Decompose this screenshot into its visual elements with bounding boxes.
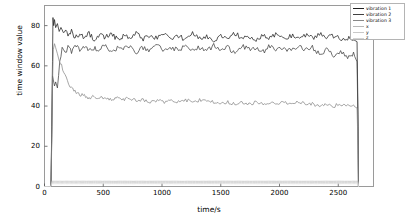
legend-item[interactable]: vibration 3 (353, 18, 402, 24)
legend-item[interactable]: x (353, 24, 402, 30)
x-tick-label: 2500 (318, 189, 358, 197)
legend-item[interactable]: vibration 2 (353, 12, 402, 18)
x-tick-label: 1000 (142, 189, 182, 197)
legend-color-swatch (353, 8, 364, 9)
chart-legend: vibration 1vibration 2vibration 3xyz (350, 3, 405, 40)
y-tick-label: 80 (14, 22, 40, 30)
y-tick-label: 0 (14, 183, 40, 191)
y-tick-label: 20 (14, 142, 40, 150)
legend-item-label: z (366, 35, 368, 41)
legend-color-swatch (353, 20, 364, 21)
chart-figure: time window value time/s 050010001500200… (0, 0, 408, 221)
legend-color-swatch (353, 38, 364, 39)
legend-item-label: x (366, 24, 369, 30)
plot-area (0, 0, 408, 221)
x-tick-label: 1500 (201, 189, 241, 197)
legend-color-swatch (353, 14, 364, 15)
x-tick-label: 2000 (260, 189, 300, 197)
x-axis-label: time/s (44, 205, 374, 214)
legend-item[interactable]: y (353, 30, 402, 36)
legend-item[interactable]: z (353, 35, 402, 41)
y-tick-label: 40 (14, 102, 40, 110)
legend-item-label: vibration 1 (366, 6, 391, 12)
y-tick-label: 60 (14, 62, 40, 70)
legend-item-label: y (366, 30, 369, 36)
x-tick-label: 500 (83, 189, 123, 197)
legend-item[interactable]: vibration 1 (353, 6, 402, 12)
legend-item-label: vibration 3 (366, 18, 391, 24)
legend-item-label: vibration 2 (366, 12, 391, 18)
legend-color-swatch (353, 26, 364, 27)
legend-color-swatch (353, 32, 364, 33)
